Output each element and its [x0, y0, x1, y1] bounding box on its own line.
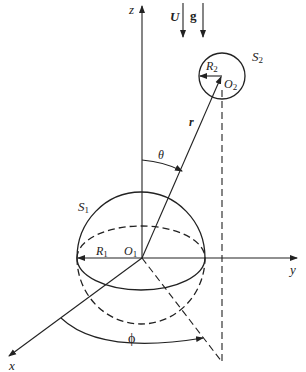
phi-label: ϕ: [128, 332, 135, 346]
position-vector-r: [142, 77, 221, 258]
theta-label: θ: [158, 149, 164, 161]
sphere2-center-label: O2: [224, 78, 237, 92]
sphere1-radius-label: R1: [96, 245, 108, 259]
projection-xy: [142, 258, 222, 362]
y-axis-label: y: [290, 263, 296, 276]
x-axis-label: x: [9, 359, 15, 372]
sphere1-center-label: O1: [124, 245, 137, 259]
sphere1-equator-front: [77, 258, 205, 290]
x-axis: [9, 258, 142, 356]
gravity-label: g: [190, 9, 197, 22]
sphere2-label: S2: [252, 50, 263, 65]
z-axis-label: z: [129, 3, 134, 16]
sphere1-label: S1: [78, 200, 89, 215]
flow-velocity-label: U: [170, 10, 179, 23]
sphere2-radius-label: R2: [206, 60, 218, 74]
position-vector-label: r: [189, 116, 194, 128]
